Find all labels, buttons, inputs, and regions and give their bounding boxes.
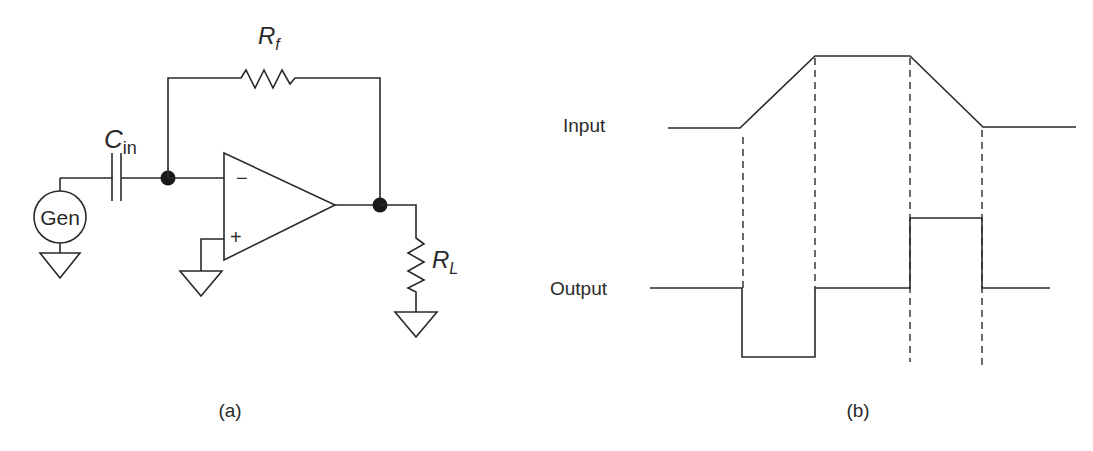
ground-icon [40,253,80,278]
generator: Gen [34,178,113,278]
circuit-diagram: Gen Cin Rf − + [34,22,458,421]
load-resistor: RL [380,205,458,337]
panel-b-caption: (b) [846,400,869,421]
input-signal-label: Input [563,115,606,136]
ground-icon [180,271,222,296]
opamp: − + [180,153,335,296]
panel-a-caption: (a) [218,400,241,421]
waveform-diagram: Input Output (b) [550,56,1076,421]
rl-label: RL [432,246,458,277]
noninverting-input-symbol: + [230,226,242,248]
generator-label: Gen [40,206,80,229]
figure-canvas: Gen Cin Rf − + [0,0,1093,451]
input-capacitor: Cin [104,124,168,201]
ground-icon [395,312,437,337]
input-waveform [668,56,1076,128]
rf-label: Rf [258,22,281,53]
cin-label: Cin [104,124,137,158]
output-waveform [650,218,1050,357]
output-signal-label: Output [550,278,608,299]
inverting-input-symbol: − [236,167,248,189]
